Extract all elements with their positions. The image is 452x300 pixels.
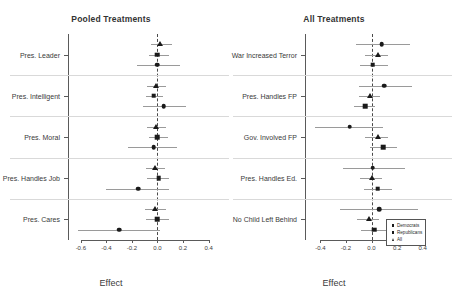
legend-item: Democrats — [389, 222, 422, 229]
estimate-point-square — [376, 186, 381, 191]
x-axis-tick-label: -0.2 — [119, 245, 145, 251]
estimate-point-tri — [366, 216, 372, 221]
category-separator — [233, 75, 452, 76]
category-separator — [10, 158, 229, 159]
estimate-point-square — [372, 227, 377, 232]
estimate-point-square — [363, 104, 368, 109]
y-axis-tick — [64, 219, 68, 220]
category-separator — [233, 199, 452, 200]
x-axis-line — [81, 240, 209, 241]
marker-square-icon — [392, 224, 395, 227]
y-axis-tick — [64, 96, 68, 97]
estimate-point-square — [156, 176, 161, 181]
marker-square-icon — [392, 231, 395, 234]
estimate-point-tri — [375, 52, 381, 57]
x-axis-tick-label: 0.0 — [359, 245, 385, 251]
x-axis-tick — [183, 240, 184, 243]
category-label: Pres. Cares — [23, 216, 60, 223]
x-axis-tick-label: 0.2 — [170, 245, 196, 251]
panel-title-left: Pooled Treatments — [0, 14, 222, 24]
marker-triangle-icon — [392, 238, 394, 241]
estimate-point-circle — [377, 207, 382, 212]
estimate-point-square — [155, 135, 160, 140]
estimate-point-circle — [370, 166, 375, 171]
estimate-point-square — [151, 94, 156, 99]
y-axis-tick — [301, 219, 305, 220]
x-axis-title-right: Effect — [223, 278, 445, 288]
category-separator — [233, 116, 452, 117]
y-axis-tick — [301, 178, 305, 179]
legend-marker-icon — [389, 238, 397, 241]
y-axis-tick — [64, 55, 68, 56]
estimate-point-tri — [375, 134, 381, 139]
legend-marker-icon — [389, 224, 397, 227]
y-axis-tick — [64, 137, 68, 138]
x-axis-tick-label: 0.0 — [144, 245, 170, 251]
y-axis-tick — [301, 96, 305, 97]
plot-area-left: -0.6-0.4-0.20.00.20.4Pres. LeaderPres. I… — [68, 34, 215, 240]
estimate-point-tri — [157, 41, 163, 46]
x-axis-title-left: Effect — [0, 278, 222, 288]
estimate-point-circle — [155, 63, 160, 68]
panel-pooled-treatments: Pooled Treatments -0.6-0.4-0.20.00.20.4P… — [0, 0, 222, 300]
x-axis-tick-label: -0.2 — [333, 245, 359, 251]
category-separator — [10, 116, 229, 117]
estimate-point-circle — [379, 42, 384, 47]
legend-label: All — [397, 237, 402, 242]
x-axis-tick-label: 0.4 — [196, 245, 222, 251]
y-axis-tick — [301, 55, 305, 56]
x-axis-tick-label: -0.4 — [93, 245, 119, 251]
estimate-point-circle — [151, 145, 156, 150]
category-label: Pres. Intelligent — [12, 92, 60, 99]
estimate-point-tri — [153, 124, 159, 129]
estimate-point-square — [155, 52, 160, 57]
category-label: Gov. Involved FP — [244, 134, 297, 141]
legend-item: All — [389, 236, 422, 243]
x-axis-tick-label: -0.4 — [307, 245, 333, 251]
estimate-point-tri — [153, 83, 159, 88]
category-label: Pres. Handles Job — [3, 175, 60, 182]
category-label: Pres. Handles FP — [242, 92, 297, 99]
estimate-point-circle — [347, 124, 352, 129]
category-label: Pres. Handles Ed. — [241, 175, 297, 182]
category-separator — [10, 75, 229, 76]
estimate-point-circle — [382, 83, 387, 88]
legend-label: Republicans — [397, 230, 422, 235]
x-axis-tick — [320, 240, 321, 243]
category-label: Pres. Leader — [20, 51, 60, 58]
legend-item: Republicans — [389, 229, 422, 236]
x-axis-tick — [346, 240, 347, 243]
legend-label: Democrats — [397, 223, 419, 228]
panel-all-treatments: All Treatments -0.4-0.20.00.20.4War Incr… — [223, 0, 445, 300]
estimate-point-tri — [367, 93, 373, 98]
estimate-point-circle — [117, 227, 122, 232]
x-axis-tick-label: -0.6 — [68, 245, 94, 251]
category-label: No Child Left Behind — [233, 216, 297, 223]
estimate-point-tri — [369, 175, 375, 180]
category-label: War Increased Terror — [232, 51, 297, 58]
estimate-point-square — [381, 145, 386, 150]
estimate-point-tri — [152, 165, 158, 170]
x-axis-tick — [157, 240, 158, 243]
x-axis-tick — [81, 240, 82, 243]
estimate-point-circle — [162, 104, 167, 109]
estimate-point-square — [370, 63, 375, 68]
estimate-point-tri — [152, 206, 158, 211]
category-separator — [233, 158, 452, 159]
x-axis-tick — [372, 240, 373, 243]
plot-area-right: -0.4-0.20.00.20.4War Increased TerrorPre… — [305, 34, 438, 240]
y-axis-tick — [64, 178, 68, 179]
x-axis-tick — [209, 240, 210, 243]
estimate-point-square — [155, 217, 160, 222]
x-axis-tick — [106, 240, 107, 243]
x-axis-tick — [132, 240, 133, 243]
legend-marker-icon — [389, 231, 397, 234]
panel-title-right: All Treatments — [223, 14, 445, 24]
category-separator — [10, 199, 229, 200]
category-label: Pres. Moral — [24, 134, 60, 141]
estimate-point-circle — [136, 186, 141, 191]
y-axis-tick — [301, 137, 305, 138]
legend: DemocratsRepublicansAll — [386, 219, 426, 246]
